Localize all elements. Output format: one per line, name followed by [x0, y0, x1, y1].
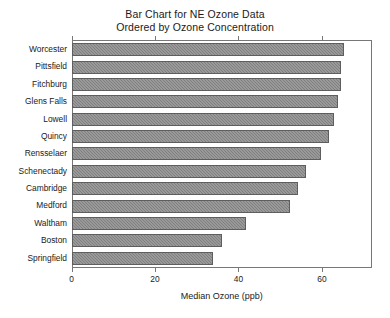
y-axis-tick-label: Waltham — [0, 215, 67, 232]
bar-row — [72, 197, 371, 214]
y-axis-tick-label: Rensselaer — [0, 145, 67, 162]
bar-row — [72, 145, 371, 162]
y-axis-tick-label: Springfield — [0, 250, 67, 267]
bar — [72, 130, 329, 143]
y-axis-category-labels: WorcesterPittsfieldFitchburgGlens FallsL… — [0, 41, 67, 267]
bar-row — [72, 111, 371, 128]
bar — [72, 78, 341, 91]
y-axis-tick-label: Glens Falls — [0, 93, 67, 110]
bar — [72, 217, 246, 230]
bar-row — [72, 250, 371, 267]
x-axis-tick-label: 20 — [135, 274, 175, 284]
bar-row — [72, 215, 371, 232]
x-axis-title: Median Ozone (ppb) — [72, 291, 373, 301]
bar-row — [72, 58, 371, 75]
x-axis-tick-mark — [155, 268, 156, 272]
bar — [72, 61, 341, 74]
y-axis-tick-label: Pittsfield — [0, 58, 67, 75]
x-axis-tick-mark-top — [238, 36, 239, 40]
bar-row — [72, 232, 371, 249]
y-axis-tick-label: Cambridge — [0, 180, 67, 197]
bar — [72, 113, 334, 126]
x-axis-tick-mark — [72, 268, 73, 272]
bar — [72, 252, 213, 265]
y-axis-tick-label: Fitchburg — [0, 76, 67, 93]
bar — [72, 165, 306, 178]
x-axis-tick-label: 60 — [302, 274, 342, 284]
chart-title-line-2: Ordered by Ozone Concentration — [0, 21, 390, 34]
x-axis-tick-label: 40 — [218, 274, 258, 284]
y-axis-tick-label: Worcester — [0, 41, 67, 58]
bar — [72, 43, 344, 56]
chart-title: Bar Chart for NE Ozone Data Ordered by O… — [0, 8, 390, 34]
bar-row — [72, 163, 371, 180]
y-axis-tick-label: Boston — [0, 232, 67, 249]
bar — [72, 147, 321, 160]
bar-row — [72, 128, 371, 145]
chart-title-line-1: Bar Chart for NE Ozone Data — [125, 8, 264, 20]
y-axis-tick-label: Medford — [0, 197, 67, 214]
y-axis-tick-label: Schenectady — [0, 163, 67, 180]
bars-layer — [72, 41, 371, 267]
x-axis-tick-mark-top — [72, 36, 73, 40]
bar-row — [72, 180, 371, 197]
x-axis-tick-mark — [322, 268, 323, 272]
bar-chart: Bar Chart for NE Ozone Data Ordered by O… — [0, 0, 390, 318]
bar-row — [72, 76, 371, 93]
bar — [72, 182, 298, 195]
bar — [72, 95, 338, 108]
y-axis-tick-label: Quincy — [0, 128, 67, 145]
bar-row — [72, 41, 371, 58]
bar-row — [72, 93, 371, 110]
y-axis-tick-label: Lowell — [0, 111, 67, 128]
x-axis-tick-mark-top — [322, 36, 323, 40]
bar — [72, 200, 290, 213]
x-axis-tick-mark — [238, 268, 239, 272]
x-axis-tick-label: 0 — [52, 274, 92, 284]
bar — [72, 234, 222, 247]
x-axis-tick-mark-top — [155, 36, 156, 40]
